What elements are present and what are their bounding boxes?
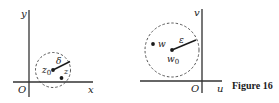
w-point-dot [151, 42, 155, 46]
w-point-label: w [158, 39, 166, 49]
origin-label-right: O [191, 83, 199, 94]
v-axis-label: v [194, 7, 200, 18]
z-point-label: z [63, 67, 69, 76]
z0-center-dot [51, 68, 55, 72]
w0-label: w0 [167, 54, 179, 66]
w0-center-dot [170, 48, 174, 52]
figure-16-diagram: y O x δ z0 z v O u ε w0 w Figure 16 [0, 0, 279, 103]
delta-label: δ [56, 56, 61, 66]
z0-label: z0 [41, 65, 51, 77]
w-plane-panel: v O u ε w0 w [140, 7, 223, 94]
figure-caption: Figure 16 [232, 80, 273, 91]
u-axis-label: u [217, 83, 223, 94]
origin-label-left: O [18, 84, 26, 95]
z-plane-panel: y O x δ z0 z [13, 8, 94, 97]
y-axis-label: y [20, 8, 27, 19]
epsilon-label: ε [179, 35, 184, 45]
epsilon-radius-line [172, 40, 196, 50]
z-point-dot [60, 76, 64, 80]
x-axis-label: x [88, 84, 94, 95]
